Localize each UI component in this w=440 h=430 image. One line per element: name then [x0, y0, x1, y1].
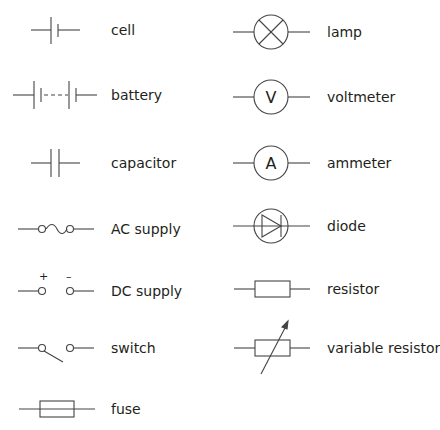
resistor-label: resistor — [327, 281, 379, 297]
lamp-label: lamp — [327, 24, 362, 40]
diode-symbol — [217, 204, 317, 248]
ammeter-symbol: A — [217, 141, 317, 185]
voltmeter-symbol: V — [217, 75, 317, 119]
capacitor-label: capacitor — [111, 155, 176, 171]
ac-supply-label: AC supply — [111, 221, 181, 237]
fuse-label: fuse — [111, 401, 141, 417]
cell-label: cell — [111, 22, 135, 38]
ac-supply-symbol — [0, 209, 100, 249]
cell-symbol — [0, 10, 100, 50]
switch-symbol — [0, 334, 100, 374]
ammeter-glyph: A — [266, 154, 277, 173]
voltmeter-glyph: V — [266, 88, 277, 107]
voltmeter-label: voltmeter — [327, 89, 395, 105]
variable-resistor-symbol — [217, 318, 317, 378]
ammeter-label: ammeter — [327, 155, 391, 171]
fuse-symbol — [0, 389, 100, 429]
lamp-symbol — [217, 10, 317, 54]
switch-label: switch — [111, 340, 156, 356]
capacitor-symbol — [0, 143, 100, 183]
dc-supply-label: DC supply — [111, 283, 182, 299]
plus-terminal-label: + — [39, 270, 48, 283]
battery-symbol — [0, 75, 100, 115]
dc-supply-symbol: + – — [0, 266, 100, 306]
battery-label: battery — [111, 87, 162, 103]
minus-terminal-label: – — [66, 270, 72, 283]
resistor-symbol — [217, 269, 317, 309]
variable-resistor-label: variable resistor — [327, 340, 440, 356]
diode-label: diode — [327, 218, 366, 234]
